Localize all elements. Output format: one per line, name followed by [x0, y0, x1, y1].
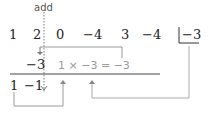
up-arrow-icon	[60, 80, 66, 84]
dividend-coef-6: −4	[142, 28, 161, 41]
dividend-coef-4: −4	[83, 28, 102, 41]
product-value: −3	[26, 58, 45, 71]
connector-line-right	[92, 46, 189, 98]
add-label: add	[34, 3, 53, 13]
dividend-coef-5: 3	[121, 28, 129, 41]
result-coef-2: −1	[24, 79, 43, 92]
result-coef-1: 1	[10, 79, 18, 92]
divisor: −3	[182, 28, 201, 41]
dividend-coef-3: 0	[56, 28, 64, 41]
up-arrow-icon	[89, 80, 95, 84]
dividend-coef-2: 2	[33, 28, 41, 41]
product-equation: 1 × −3 = −3	[58, 60, 130, 71]
connector-line-top	[40, 47, 122, 58]
down-arrow-icon	[37, 52, 43, 55]
dividend-coef-1: 1	[9, 28, 17, 41]
